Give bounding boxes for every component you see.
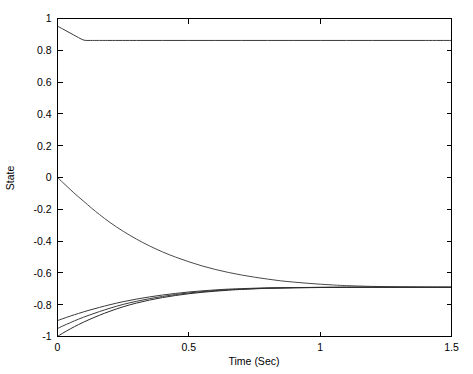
chart-plot: 00.511.5 -1-0.8-0.6-0.4-0.200.20.40.60.8… xyxy=(0,0,473,374)
x-axis-title: Time (Sec) xyxy=(229,355,280,367)
y-tick-label-4: -0.2 xyxy=(33,203,51,215)
y-tick-label-8: 0.6 xyxy=(37,76,52,88)
y-tick-label-3: -0.4 xyxy=(33,235,51,247)
x-tick-label-3: 1.5 xyxy=(444,341,459,353)
y-tick-label-2: -0.6 xyxy=(33,267,51,279)
x-tick-label-2: 1 xyxy=(317,341,323,353)
y-axis-title: State xyxy=(4,166,16,191)
figure-background xyxy=(0,0,473,374)
x-tick-label-0: 0 xyxy=(55,341,61,353)
y-tick-label-7: 0.4 xyxy=(37,108,52,120)
y-tick-label-10: 1 xyxy=(46,12,52,24)
figure-canvas: 00.511.5 -1-0.8-0.6-0.4-0.200.20.40.60.8… xyxy=(0,0,473,374)
x-tick-label-1: 0.5 xyxy=(182,341,197,353)
y-tick-label-9: 0.8 xyxy=(37,44,52,56)
y-tick-label-0: -1 xyxy=(42,330,51,342)
y-tick-label-5: 0 xyxy=(46,171,52,183)
y-tick-label-6: 0.2 xyxy=(37,140,52,152)
y-tick-label-1: -0.8 xyxy=(33,299,51,311)
